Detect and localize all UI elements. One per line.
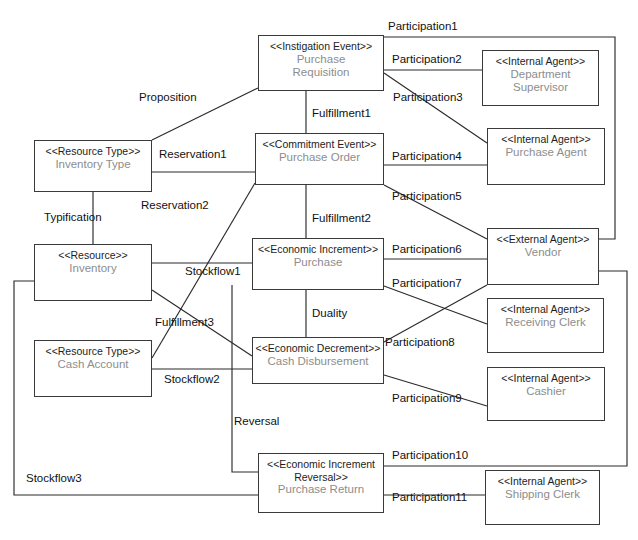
edge-label-stockflow2: Stockflow2: [164, 373, 220, 386]
edge-label-participation3: Participation3: [393, 91, 463, 104]
class-box-purchase-order[interactable]: <<Commitment Event>>Purchase Order: [255, 133, 384, 185]
edge-label-participation1: Participation1: [388, 20, 458, 33]
stereotype-label: <<Resource Type>>: [46, 145, 141, 158]
edge-label-participation11: Participation11: [392, 491, 467, 504]
edge-label-participation10: Participation10: [392, 449, 468, 462]
edge-label-participation8: Participation8: [385, 336, 455, 349]
class-name-label: Inventory: [69, 262, 116, 276]
stereotype-label: <<Resource>>: [58, 249, 127, 262]
class-name-label: Purchase: [294, 256, 343, 270]
class-name-label: Receiving Clerk: [505, 316, 586, 330]
edge-label-duality: Duality: [312, 307, 347, 320]
edge-label-participation2: Participation2: [392, 53, 462, 66]
class-name-label: Vendor: [525, 246, 561, 260]
stereotype-label: <<Instigation Event>>: [270, 40, 372, 53]
class-box-vendor[interactable]: <<External Agent>>Vendor: [487, 228, 599, 285]
class-name-label: Purchase Return: [278, 483, 364, 497]
class-box-inventory-type[interactable]: <<Resource Type>>Inventory Type: [34, 140, 152, 192]
stereotype-label: <<Internal Agent>>: [501, 303, 590, 316]
connector-participation8: [384, 285, 487, 342]
edge-label-participation5: Participation5: [392, 190, 462, 203]
stereotype-label: <<Economic Increment>>: [258, 243, 378, 256]
class-box-purchase[interactable]: <<Economic Increment>>Purchase: [252, 238, 384, 290]
class-name-label: Cash Disbursement: [268, 355, 369, 369]
edge-label-participation9: Participation9: [392, 392, 462, 405]
connector-participation3: [384, 73, 487, 143]
class-box-receiving-clerk[interactable]: <<Internal Agent>>Receiving Clerk: [487, 298, 604, 353]
class-box-cashier[interactable]: <<Internal Agent>>Cashier: [487, 367, 605, 421]
edge-label-proposition: Proposition: [139, 91, 197, 104]
class-box-cash-disbursement[interactable]: <<Economic Decrement>>Cash Disbursement: [252, 337, 384, 384]
edge-label-participation6: Participation6: [392, 243, 462, 256]
stereotype-label: <<Internal Agent>>: [501, 133, 590, 146]
stereotype-label: <<Internal Agent>>: [496, 55, 585, 68]
class-name-label: Purchase Order: [279, 151, 360, 165]
edge-label-participation7: Participation7: [392, 277, 462, 290]
class-name-label: Purchase Requisition: [293, 53, 350, 80]
edge-label-typification: Typification: [44, 211, 102, 224]
stereotype-label: <<External Agent>>: [497, 233, 590, 246]
class-box-department-supervisor[interactable]: <<Internal Agent>>Department Supervisor: [482, 50, 599, 106]
class-name-label: Cash Account: [58, 358, 129, 372]
uml-class-diagram: <<Instigation Event>>Purchase Requisitio…: [0, 0, 638, 540]
stereotype-label: <<Economic Decrement>>: [256, 342, 381, 355]
class-box-cash-account[interactable]: <<Resource Type>>Cash Account: [34, 340, 152, 397]
edge-label-reversal: Reversal: [234, 415, 279, 428]
stereotype-label: <<Internal Agent>>: [498, 475, 587, 488]
class-name-label: Cashier: [526, 385, 566, 399]
class-box-purchase-agent[interactable]: <<Internal Agent>>Purchase Agent: [487, 128, 605, 185]
edge-label-participation4: Participation4: [392, 150, 462, 163]
edge-label-fulfillment3: Fulfillment3: [155, 316, 214, 329]
class-name-label: Shipping Clerk: [505, 488, 580, 502]
edge-label-fulfillment2: Fulfillment2: [312, 212, 371, 225]
stereotype-label: <<Internal Agent>>: [501, 372, 590, 385]
stereotype-label: <<Economic Increment Reversal>>: [267, 458, 375, 483]
edge-label-stockflow3: Stockflow3: [26, 472, 82, 485]
class-box-purchase-requisition[interactable]: <<Instigation Event>>Purchase Requisitio…: [258, 35, 384, 91]
edge-label-stockflow1: Stockflow1: [185, 265, 241, 278]
edge-label-reservation1: Reservation1: [159, 148, 227, 161]
class-box-inventory[interactable]: <<Resource>>Inventory: [34, 244, 152, 301]
connector-participation7: [384, 286, 487, 324]
stereotype-label: <<Commitment Event>>: [263, 138, 377, 151]
edge-label-fulfillment1: Fulfillment1: [312, 107, 371, 120]
class-box-shipping-clerk[interactable]: <<Internal Agent>>Shipping Clerk: [485, 470, 600, 525]
class-name-label: Department Supervisor: [510, 68, 570, 95]
class-box-purchase-return[interactable]: <<Economic Increment Reversal>>Purchase …: [258, 453, 384, 513]
stereotype-label: <<Resource Type>>: [46, 345, 141, 358]
class-name-label: Purchase Agent: [505, 146, 586, 160]
edge-label-reservation2: Reservation2: [141, 199, 209, 212]
class-name-label: Inventory Type: [55, 158, 130, 172]
